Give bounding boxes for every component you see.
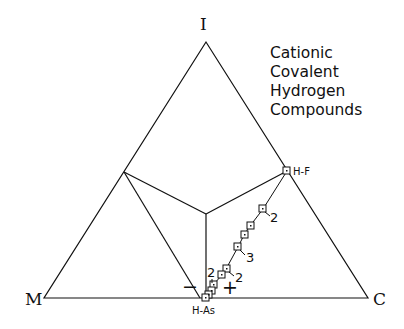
vertex-label-top: I (200, 14, 207, 34)
title-line: Hydrogen (270, 82, 362, 101)
plus-sign: + (222, 276, 238, 298)
count-label: 2 (270, 210, 278, 225)
boundary-center-right (206, 171, 287, 214)
title-line: Covalent (270, 63, 362, 82)
point-label-h-as: H-As (192, 305, 215, 316)
count-label: 3 (246, 250, 254, 265)
leader (240, 250, 245, 255)
point-label-h-f: H-F (293, 166, 310, 177)
title-line: Compounds (270, 101, 362, 120)
minus-sign: − (182, 275, 198, 297)
vertex-label-left: M (25, 289, 42, 309)
title-line: Cationic (270, 44, 362, 63)
count-label: 2 (207, 265, 215, 280)
diagram-title: Cationic Covalent Hydrogen Compounds (270, 44, 362, 120)
vertex-label-right: C (373, 289, 386, 309)
